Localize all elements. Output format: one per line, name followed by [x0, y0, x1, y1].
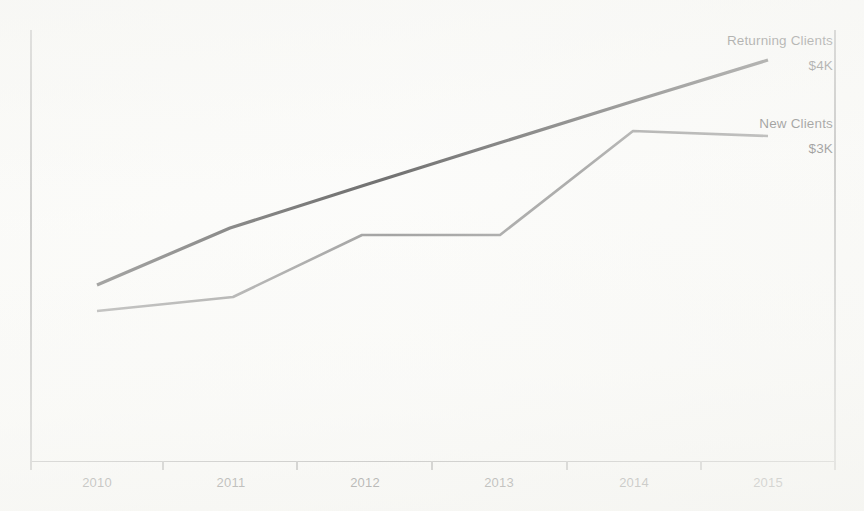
x-axis-label-2011: 2011: [217, 475, 246, 490]
series-label-returning-clients: Returning Clients: [727, 33, 833, 48]
axes-group: [31, 30, 835, 462]
x-axis-label-2015: 2015: [753, 475, 783, 490]
x-axis-label-2010: 2010: [82, 475, 112, 490]
series-value-returning-clients: $4K: [809, 58, 833, 73]
line-chart: 201020112012201320142015 Returning Clien…: [0, 0, 864, 511]
series-line-new-clients[interactable]: [97, 131, 768, 311]
x-axis-tick-marks: [31, 461, 835, 470]
series-labels-group: Returning Clients $4K New Clients $3K: [727, 33, 833, 156]
series-label-new-clients: New Clients: [759, 116, 833, 131]
x-axis-label-2014: 2014: [619, 475, 649, 490]
series-group: [97, 60, 768, 311]
series-line-returning-clients[interactable]: [97, 60, 768, 285]
series-value-new-clients: $3K: [809, 141, 833, 156]
chart-page: 201020112012201320142015 Returning Clien…: [0, 0, 864, 511]
x-axis-label-2012: 2012: [350, 475, 380, 490]
x-axis-label-2013: 2013: [484, 475, 514, 490]
x-axis-tick-labels: 201020112012201320142015: [82, 475, 783, 490]
